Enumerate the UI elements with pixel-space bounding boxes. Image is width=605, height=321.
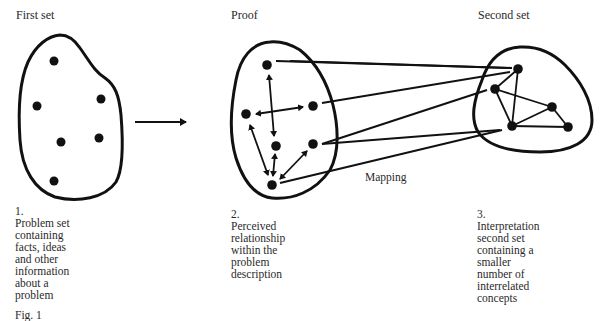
caption-line: interrelated — [477, 280, 540, 292]
caption-proof: 2. Perceived relationship within the pro… — [231, 208, 285, 280]
caption-number: 1. — [15, 205, 70, 217]
caption-line: relationship — [231, 232, 285, 244]
caption-number: 3. — [477, 208, 540, 220]
proof-relation-arrows — [250, 75, 307, 179]
second-set-nodes — [490, 64, 573, 132]
caption-line: description — [231, 268, 285, 280]
mapping-lines — [276, 61, 512, 183]
caption-line: containing — [15, 229, 70, 241]
caption-line: Perceived — [231, 220, 285, 232]
caption-line: smaller — [477, 256, 540, 268]
caption-line: number of — [477, 268, 540, 280]
caption-line: concepts — [477, 292, 540, 304]
caption-line: problem — [15, 289, 70, 301]
caption-line: and other — [15, 253, 70, 265]
second-set-relations — [495, 69, 568, 127]
caption-line: facts, ideas — [15, 241, 70, 253]
proof-nodes — [241, 60, 318, 190]
caption-line: within the — [231, 244, 285, 256]
caption-line: information — [15, 265, 70, 277]
caption-line: Interpretation — [477, 220, 540, 232]
first-set-blob — [19, 35, 122, 199]
caption-number: 2. — [231, 208, 285, 220]
figure-label: Fig. 1 — [15, 309, 42, 321]
caption-line: about a — [15, 277, 70, 289]
caption-first-set: 1. Problem set containing facts, ideas a… — [15, 205, 70, 301]
caption-second-set: 3. Interpretation second set containing … — [477, 208, 540, 304]
mapping-label: Mapping — [365, 171, 407, 183]
caption-line: containing a — [477, 244, 540, 256]
caption-line: problem — [231, 256, 285, 268]
caption-line: second set — [477, 232, 540, 244]
first-set-nodes — [33, 57, 106, 186]
caption-line: Problem set — [15, 217, 70, 229]
second-set-blob — [474, 47, 592, 152]
